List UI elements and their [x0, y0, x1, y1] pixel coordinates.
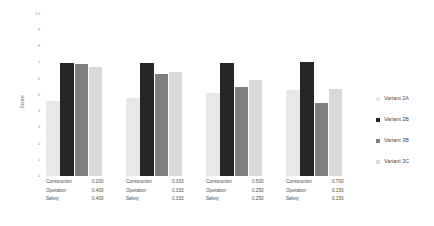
table-row: Operation0.250 — [206, 187, 282, 196]
y-axis-tick-3: 3 — [20, 125, 40, 129]
criterion-label-operation: Operation — [126, 187, 146, 196]
table-row: Operation0.150 — [286, 187, 362, 196]
criterion-label-construction: Construction — [46, 178, 72, 187]
bar-variant-3c-group-3 — [249, 80, 263, 176]
criterion-label-operation: Operation — [286, 187, 306, 196]
criterion-weight-value: 0.250 — [252, 187, 264, 196]
bar-variant-3b-group-2 — [155, 74, 169, 176]
criterion-label-safety: Safety — [126, 195, 139, 204]
y-axis-tick-6: 6 — [20, 77, 40, 81]
bar-variant-3c-group-4 — [329, 89, 343, 176]
criterion-label-safety: Safety — [46, 195, 59, 204]
legend-swatch-icon — [376, 139, 380, 143]
bar-variant-2b-group-1 — [60, 63, 74, 176]
y-axis-tick-7: 7 — [20, 60, 40, 64]
weights-block-2: Construction0.333Operation0.333Safety0.3… — [126, 178, 202, 204]
legend-item-variant-3b[interactable]: Variant 3B — [376, 130, 434, 151]
y-axis-tick-2: 2 — [20, 141, 40, 145]
y-axis-tick-0: 0 — [20, 174, 40, 178]
legend-label: Variant 3C — [384, 151, 409, 172]
y-axis-tick-1: 1 — [20, 158, 40, 162]
y-axis-tick-4: 4 — [20, 109, 40, 113]
criterion-label-safety: Safety — [286, 195, 299, 204]
plot-area — [42, 14, 362, 176]
bar-variant-3b-group-3 — [235, 87, 249, 176]
criterion-weight-value: 0.500 — [252, 178, 264, 187]
criterion-weight-value: 0.150 — [332, 187, 344, 196]
bar-variant-3b-group-4 — [315, 103, 329, 176]
bar-group-3 — [206, 14, 262, 176]
legend-swatch-icon — [376, 118, 380, 122]
criterion-weight-value: 0.200 — [92, 178, 104, 187]
weights-block-3: Construction0.500Operation0.250Safety0.2… — [206, 178, 282, 204]
criterion-weight-value: 0.150 — [332, 195, 344, 204]
bar-group-4 — [286, 14, 342, 176]
criterion-label-construction: Construction — [206, 178, 232, 187]
criterion-label-operation: Operation — [46, 187, 66, 196]
bar-variant-2b-group-4 — [300, 62, 314, 176]
chart-legend: Variant 2AVariant 2BVariant 3BVariant 3C — [376, 88, 434, 172]
legend-label: Variant 3B — [384, 130, 409, 151]
legend-label: Variant 2B — [384, 109, 409, 130]
y-axis-tick-9: 9 — [20, 28, 40, 32]
criterion-weight-value: 0.333 — [172, 195, 184, 204]
bar-variant-2b-group-3 — [220, 63, 234, 176]
bar-variant-3c-group-2 — [169, 72, 183, 176]
bar-variant-2a-group-4 — [286, 90, 300, 176]
table-row: Operation0.400 — [46, 187, 122, 196]
y-axis-tick-10: 10 — [20, 12, 40, 16]
table-row: Construction0.700 — [286, 178, 362, 187]
criterion-weight-value: 0.400 — [92, 195, 104, 204]
legend-item-variant-2b[interactable]: Variant 2B — [376, 109, 434, 130]
criterion-weight-value: 0.700 — [332, 178, 344, 187]
table-row: Safety0.333 — [126, 195, 202, 204]
criterion-weight-value: 0.333 — [172, 178, 184, 187]
weights-block-1: Construction0.200Operation0.400Safety0.4… — [46, 178, 122, 204]
y-axis-tick-5: 5 — [20, 93, 40, 97]
bar-variant-3c-group-1 — [89, 67, 103, 176]
legend-label: Variant 2A — [384, 88, 409, 109]
criterion-label-safety: Safety — [206, 195, 219, 204]
bar-group-1 — [46, 14, 102, 176]
bar-variant-2a-group-2 — [126, 98, 140, 176]
table-row: Operation0.333 — [126, 187, 202, 196]
criterion-weight-value: 0.333 — [172, 187, 184, 196]
bar-variant-3b-group-1 — [75, 64, 89, 176]
criterion-weight-value: 0.400 — [92, 187, 104, 196]
weights-block-4: Construction0.700Operation0.150Safety0.1… — [286, 178, 362, 204]
criterion-label-construction: Construction — [286, 178, 312, 187]
y-axis-tick-8: 8 — [20, 44, 40, 48]
bar-variant-2b-group-2 — [140, 63, 154, 176]
legend-item-variant-2a[interactable]: Variant 2A — [376, 88, 434, 109]
legend-swatch-icon — [376, 97, 380, 101]
weights-data-table: Construction0.200Operation0.400Safety0.4… — [42, 178, 362, 220]
table-row: Construction0.500 — [206, 178, 282, 187]
legend-swatch-icon — [376, 160, 380, 164]
bar-variant-2a-group-1 — [46, 101, 60, 176]
criterion-weight-value: 0.250 — [252, 195, 264, 204]
bar-variant-2a-group-3 — [206, 93, 220, 176]
table-row: Safety0.250 — [206, 195, 282, 204]
criterion-label-construction: Construction — [126, 178, 152, 187]
bar-chart: Score 109876543210 Construction0.200Oper… — [0, 0, 434, 226]
criterion-label-operation: Operation — [206, 187, 226, 196]
bar-group-2 — [126, 14, 182, 176]
table-row: Safety0.400 — [46, 195, 122, 204]
y-axis-tick-labels: 109876543210 — [20, 14, 40, 176]
table-row: Construction0.200 — [46, 178, 122, 187]
table-row: Safety0.150 — [286, 195, 362, 204]
legend-item-variant-3c[interactable]: Variant 3C — [376, 151, 434, 172]
table-row: Construction0.333 — [126, 178, 202, 187]
